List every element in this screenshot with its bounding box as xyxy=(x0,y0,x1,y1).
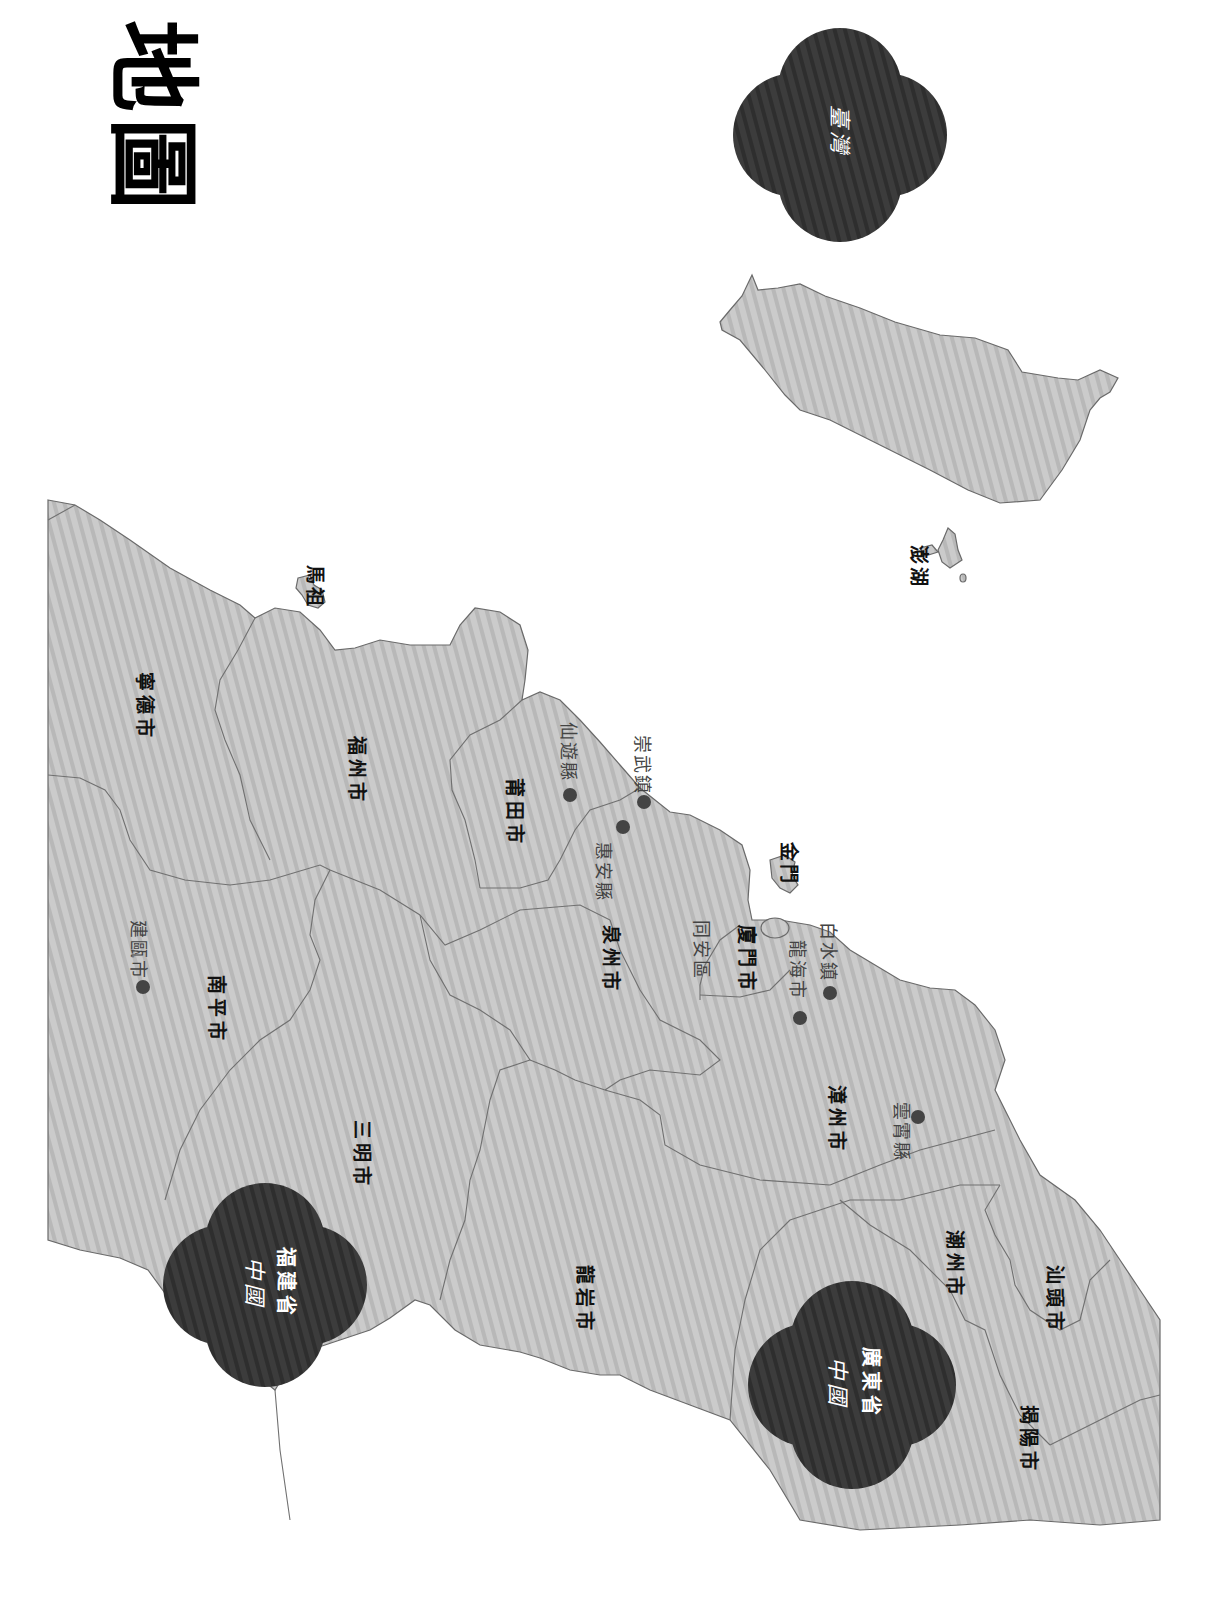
island-label-matsu: 馬祖 xyxy=(304,565,326,609)
city-label-ningde: 寧德市 xyxy=(134,672,156,741)
city-label-shantou: 汕頭市 xyxy=(1044,1265,1066,1334)
svg-text:中國: 中國 xyxy=(825,1357,850,1409)
city-label-zhangzhou: 漳州市 xyxy=(826,1085,848,1154)
city-label-fuzhou: 福州市 xyxy=(346,735,368,805)
svg-text:龍海市: 龍海市 xyxy=(787,940,808,1000)
city-label-chaozhou: 潮州市 xyxy=(944,1230,966,1299)
city-label-sanming: 三明市 xyxy=(351,1120,373,1189)
svg-text:建甌市: 建甌市 xyxy=(128,920,149,980)
city-label-jieyang: 揭陽市 xyxy=(1018,1405,1040,1474)
town-tongan: 同安區 xyxy=(691,920,712,980)
svg-text:雲霄縣: 雲霄縣 xyxy=(891,1102,912,1162)
svg-text:福建省: 福建省 xyxy=(274,1246,298,1319)
city-label-nanping: 南平市 xyxy=(206,975,228,1044)
city-label-putian: 莆田市 xyxy=(504,778,526,847)
svg-text:中國: 中國 xyxy=(242,1257,267,1309)
taiwan-island xyxy=(720,275,1118,503)
city-label-xiamen: 廈門市 xyxy=(736,925,758,994)
map-canvas[interactable]: 地圖 xyxy=(0,0,1216,1617)
svg-text:臺灣: 臺灣 xyxy=(827,105,852,157)
svg-text:同安區: 同安區 xyxy=(691,920,712,980)
city-label-quanzhou: 泉州市 xyxy=(600,924,622,994)
svg-text:白水鎮: 白水鎮 xyxy=(818,922,839,982)
island-label-penghu: 澎湖 xyxy=(908,545,930,589)
svg-text:仙遊縣: 仙遊縣 xyxy=(558,722,579,782)
svg-text:地圖: 地圖 xyxy=(98,20,205,216)
svg-text:惠安縣: 惠安縣 xyxy=(593,842,614,902)
svg-text:廣東省: 廣東省 xyxy=(859,1347,883,1419)
xiamen-island xyxy=(761,918,789,938)
badge-taiwan: 臺灣 xyxy=(733,28,947,242)
city-label-longyan: 龍岩市 xyxy=(574,1265,596,1334)
map-title: 地圖 xyxy=(98,20,205,216)
svg-text:崇武鎮: 崇武鎮 xyxy=(632,735,653,795)
island-label-kinmen: 金門 xyxy=(778,841,800,886)
